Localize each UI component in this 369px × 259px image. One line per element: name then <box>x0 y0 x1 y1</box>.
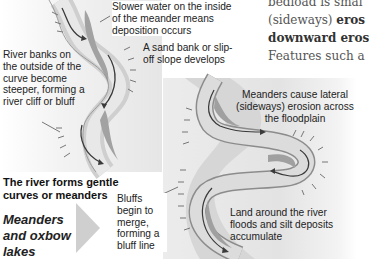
label-river-banks: River banks on the outside of the curve … <box>3 49 87 108</box>
label-sand-bank: A sand bank or slip-off slope develops <box>143 42 243 66</box>
book-line-3: downward eros <box>268 29 368 47</box>
book-line-1: bedload is smal <box>268 0 368 11</box>
book-line-3-bold: downward eros <box>268 31 369 45</box>
left-panel-caption: The river forms gentle curves or meander… <box>3 176 128 202</box>
diagram-title: Meanders and oxbow lakes <box>3 212 83 259</box>
label-land-floods: Land around the river floods and silt de… <box>230 207 350 242</box>
book-line-2-bold: eros <box>336 13 365 27</box>
book-line-4: Features such a <box>268 47 368 65</box>
label-lateral-erosion: Meanders cause lateral (sideways) erosio… <box>233 89 357 124</box>
book-line-2-plain: (sideways) <box>268 13 336 27</box>
book-line-2: (sideways) eros <box>268 11 368 29</box>
label-slower-water: Slower water on the inside of the meande… <box>112 1 232 36</box>
book-text-fragment: bedload is smal (sideways) eros downward… <box>268 0 368 65</box>
